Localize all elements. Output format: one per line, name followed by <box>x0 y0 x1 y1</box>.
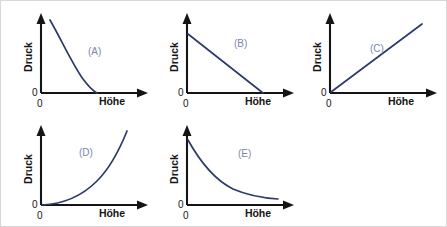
plot-panel-d: 0 0 Druck Höhe (D) <box>15 119 155 223</box>
x-axis-label-a: Höhe <box>99 95 125 107</box>
x-axis-arrow-c <box>426 89 437 98</box>
curve-b <box>188 34 263 93</box>
figure-frame: 0 0 Druck Höhe (A) 0 0 Druck Höhe (B) <box>0 0 447 227</box>
x-axis-label-e: Höhe <box>245 207 271 219</box>
curve-d <box>42 131 127 205</box>
y-axis-label-a: Druck <box>22 42 34 72</box>
y-axis-label-d: Druck <box>22 154 34 184</box>
origin-label-y-b: 0 <box>178 87 184 98</box>
origin-label-x-c: 0 <box>326 98 332 109</box>
origin-label-x-a: 0 <box>37 98 43 109</box>
plot-panel-c: 0 0 Druck Höhe (C) <box>304 7 444 111</box>
origin-label-x-e: 0 <box>183 210 189 221</box>
origin-label-y-c: 0 <box>321 87 327 98</box>
curve-c <box>331 24 422 92</box>
y-axis-label-b: Druck <box>168 42 180 72</box>
x-axis-arrow-a <box>137 89 148 98</box>
x-axis-arrow-b <box>283 89 294 98</box>
plot-panel-e: 0 0 Druck Höhe (E) <box>161 119 301 223</box>
origin-label-y-a: 0 <box>32 87 38 98</box>
x-axis-label-c: Höhe <box>388 95 414 107</box>
x-axis-label-b: Höhe <box>245 95 271 107</box>
panel-letter-a: (A) <box>88 46 101 57</box>
panel-letter-e: (E) <box>238 148 251 159</box>
x-axis-arrow-e <box>283 201 294 210</box>
x-axis-label-d: Höhe <box>99 207 125 219</box>
panel-letter-d: (D) <box>79 147 93 158</box>
panel-letter-b: (B) <box>234 38 247 49</box>
origin-label-x-d: 0 <box>37 210 43 221</box>
x-axis-arrow-d <box>137 201 148 210</box>
y-axis-label-e: Druck <box>168 154 180 184</box>
plot-panel-a: 0 0 Druck Höhe (A) <box>15 7 155 111</box>
y-axis-arrow-c <box>326 13 335 24</box>
y-axis-arrow-a <box>37 13 46 24</box>
curve-e <box>188 140 278 199</box>
y-axis-arrow-e <box>183 125 192 136</box>
y-axis-arrow-d <box>37 125 46 136</box>
origin-label-y-d: 0 <box>32 199 38 210</box>
panel-letter-c: (C) <box>370 43 384 54</box>
origin-label-y-e: 0 <box>178 199 184 210</box>
plot-grid: 0 0 Druck Höhe (A) 0 0 Druck Höhe (B) <box>1 1 447 227</box>
plot-panel-b: 0 0 Druck Höhe (B) <box>161 7 301 111</box>
y-axis-label-c: Druck <box>311 42 323 72</box>
y-axis-arrow-b <box>183 13 192 24</box>
origin-label-x-b: 0 <box>183 98 189 109</box>
